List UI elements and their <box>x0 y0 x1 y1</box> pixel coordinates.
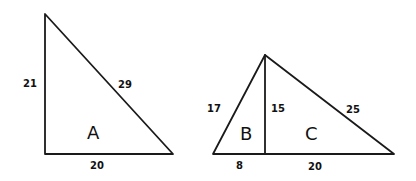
region-b-label: B <box>240 123 252 144</box>
triangle-c-right-side-label: 25 <box>346 104 360 115</box>
bottom-left-segment-label: 8 <box>236 160 243 171</box>
triangle-b-left-side-label: 17 <box>207 103 221 114</box>
region-c-label: C <box>305 123 318 144</box>
bottom-right-segment-label: 20 <box>308 161 322 172</box>
triangle-a-region-label: A <box>87 122 100 143</box>
triangle-a-outline <box>45 14 173 154</box>
triangle-a-left-side-label: 21 <box>23 78 37 89</box>
triangle-bc: 17 15 25 B C 8 20 <box>207 55 394 172</box>
diagram-canvas: 21 29 A 20 17 15 25 B C 8 20 <box>0 0 416 181</box>
triangle-a: 21 29 A 20 <box>23 14 173 171</box>
altitude-label: 15 <box>271 103 285 114</box>
triangle-a-bottom-side-label: 20 <box>90 160 104 171</box>
triangle-a-hypotenuse-label: 29 <box>118 79 132 90</box>
